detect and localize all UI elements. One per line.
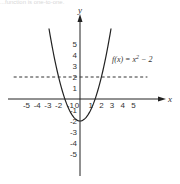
y-tick-label: -4 [70, 139, 78, 148]
y-axis-label: y [77, 5, 82, 15]
x-axis-arrow-icon [158, 97, 166, 102]
x-tick-label: 5 [131, 101, 136, 110]
x-tick-label: -3 [44, 101, 52, 110]
x-tick-label: -5 [23, 101, 31, 110]
y-tick-label: -2 [70, 117, 78, 126]
annotations: f(x) = x2 − 2 [112, 54, 152, 64]
y-tick-label: 1 [73, 84, 78, 93]
function-label: f(x) = x2 − 2 [112, 54, 152, 64]
chart: xy -5-4-3-2-101234554321-1-2-3-4-5 f(x) … [0, 0, 180, 184]
y-tick-label: 3 [73, 62, 78, 71]
x-tick-label: 2 [99, 101, 104, 110]
x-axis-label: x [167, 94, 172, 104]
y-tick-label: -5 [70, 150, 78, 159]
y-tick-label: -3 [70, 128, 78, 137]
y-tick-label: 5 [73, 40, 78, 49]
y-tick-label: 4 [73, 51, 78, 60]
axes: xy [8, 5, 172, 176]
x-tick-label: -4 [34, 101, 42, 110]
y-axis-arrow-icon [78, 14, 83, 22]
x-tick-label: 4 [121, 101, 126, 110]
x-tick-label: -2 [55, 101, 63, 110]
x-tick-label: 3 [110, 101, 115, 110]
